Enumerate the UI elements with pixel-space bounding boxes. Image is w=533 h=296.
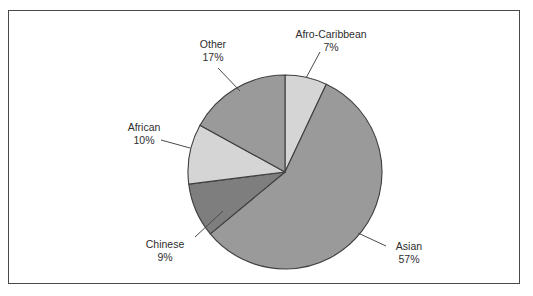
slice-label-afro-caribbean-value: 7% (323, 41, 338, 53)
leader-line-african (161, 140, 190, 148)
slice-label-chinese-name: Chinese (146, 238, 185, 250)
leader-line-asian (358, 233, 386, 246)
slice-label-afro-caribbean-name: Afro-Caribbean (295, 28, 366, 40)
figure-container: Afro-Caribbean 7% Other 17% African 10% … (0, 0, 533, 296)
leader-line-other (218, 68, 240, 91)
slice-label-asian-value: 57% (398, 253, 419, 265)
slice-label-african-name: African (128, 121, 161, 133)
slice-label-african-value: 10% (133, 134, 154, 146)
slice-label-other-name: Other (200, 38, 227, 50)
pie-chart: Afro-Caribbean 7% Other 17% African 10% … (0, 0, 533, 296)
slice-label-other-value: 17% (202, 51, 223, 63)
slice-label-chinese-value: 9% (157, 251, 172, 263)
slice-label-asian-name: Asian (396, 240, 422, 252)
leader-line-afro-caribbean (306, 52, 320, 78)
